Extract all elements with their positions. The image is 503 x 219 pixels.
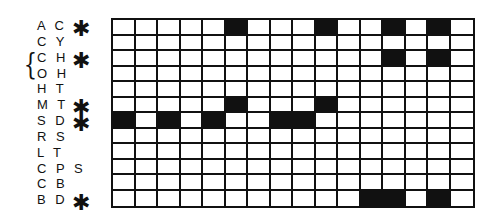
grid-cell-empty (383, 98, 406, 114)
row-label: O H (0, 66, 110, 82)
row-label: R S (0, 129, 110, 145)
grid-cell-empty (158, 36, 181, 52)
asterisk-icon: ✱ (72, 195, 90, 211)
grid-cell-empty (316, 113, 339, 129)
grid-cell-empty (203, 20, 226, 36)
grid-cell-empty (113, 82, 136, 98)
grid-cell-empty (181, 191, 204, 207)
grid-cell-empty (428, 113, 451, 129)
grid-cell-empty (428, 129, 451, 145)
grid-cell-empty (203, 67, 226, 83)
grid-cell-empty (181, 129, 204, 145)
grid-cell-empty (316, 67, 339, 83)
grid-cell-empty (136, 82, 159, 98)
grid-cell-empty (338, 51, 361, 67)
grid-cell-empty (248, 113, 271, 129)
grid-cell-empty (248, 51, 271, 67)
grid-cell-empty (203, 82, 226, 98)
grid-cell-empty (406, 36, 429, 52)
grid-cell-empty (293, 51, 316, 67)
grid-cell-empty (406, 113, 429, 129)
grid-cell-empty (158, 160, 181, 176)
grid-cell-empty (428, 82, 451, 98)
grid-cell-empty (113, 191, 136, 207)
grid-cell-empty (428, 144, 451, 160)
grid-cell-empty (271, 144, 294, 160)
grid-cell-empty (158, 175, 181, 191)
grid-cell-empty (383, 67, 406, 83)
grid-cell-filled (361, 191, 384, 207)
grid-cell-empty (248, 175, 271, 191)
grid-cell-empty (361, 144, 384, 160)
grid-cell-empty (361, 98, 384, 114)
grid-cell-empty (406, 82, 429, 98)
grid-cell-empty (181, 82, 204, 98)
grid-cell-empty (316, 160, 339, 176)
grid-cell-empty (248, 20, 271, 36)
grid-cell-empty (136, 175, 159, 191)
grid-cell-empty (271, 175, 294, 191)
grid-cell-empty (158, 98, 181, 114)
grid-cell-empty (226, 160, 249, 176)
row-label-text: O H (37, 66, 69, 82)
grid-cell-empty (361, 129, 384, 145)
grid-cell-empty (293, 20, 316, 36)
grid-cell-empty (113, 144, 136, 160)
grid-cell-empty (226, 36, 249, 52)
grid-cell-empty (113, 175, 136, 191)
grid-cell-empty (158, 67, 181, 83)
row-label: C B (0, 176, 110, 192)
grid-cell-filled (383, 191, 406, 207)
row-label-text: S D (37, 113, 68, 129)
grid-cell-empty (406, 191, 429, 207)
grid-cell-empty (293, 36, 316, 52)
grid-cell-empty (136, 129, 159, 145)
grid-cell-empty (203, 51, 226, 67)
grid-cell-empty (181, 98, 204, 114)
grid-cell-empty (451, 144, 474, 160)
grid-cell-empty (316, 51, 339, 67)
grid-cell-empty (271, 129, 294, 145)
grid-cell-empty (226, 144, 249, 160)
grid-cell-empty (113, 51, 136, 67)
grid-cell-empty (316, 82, 339, 98)
grid-cell-empty (248, 129, 271, 145)
grid-cell-empty (136, 113, 159, 129)
grid-cell-empty (338, 175, 361, 191)
grid-cell-empty (271, 20, 294, 36)
grid-cell-empty (226, 113, 249, 129)
grid-cell-empty (113, 20, 136, 36)
grid-cell-empty (293, 175, 316, 191)
grid-cell-empty (136, 144, 159, 160)
grid-cell-empty (113, 129, 136, 145)
grid-cell-empty (271, 36, 294, 52)
grid-cell-empty (383, 82, 406, 98)
grid-cell-empty (158, 129, 181, 145)
grid-cell-empty (226, 191, 249, 207)
grid-cell-filled (158, 113, 181, 129)
grid-cell-empty (361, 67, 384, 83)
grid-cell-empty (451, 160, 474, 176)
grid-cell-filled (203, 113, 226, 129)
grid-cell-filled (383, 51, 406, 67)
grid-cell-empty (406, 175, 429, 191)
grid-cell-empty (406, 129, 429, 145)
grid-cell-empty (406, 67, 429, 83)
row-label-text: R S (37, 129, 68, 145)
grid-cell-empty (248, 160, 271, 176)
grid-cell-empty (181, 51, 204, 67)
grid-cell-empty (361, 113, 384, 129)
grid-cell-empty (383, 129, 406, 145)
grid-cell-empty (181, 113, 204, 129)
row-label-text: L T (37, 145, 64, 161)
row-labels: { A C✱C YC H✱O HH TM T✱S D✱R SL TC P SC … (0, 0, 110, 219)
grid-cell-empty (406, 160, 429, 176)
row-label: A C✱ (0, 18, 110, 34)
grid-cell-empty (338, 160, 361, 176)
grid-cell-empty (316, 191, 339, 207)
grid-cell-empty (383, 113, 406, 129)
grid-cell-empty (203, 98, 226, 114)
grid-cell-empty (113, 160, 136, 176)
grid-cell-empty (203, 36, 226, 52)
grid-cell-empty (181, 36, 204, 52)
